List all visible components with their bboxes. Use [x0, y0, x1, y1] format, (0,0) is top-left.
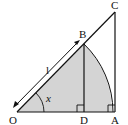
label-O: O — [9, 114, 17, 125]
arrowhead-lower-icon — [13, 101, 19, 108]
arrowhead-upper-icon — [74, 40, 80, 45]
shaded-sector — [17, 44, 112, 112]
geometry-diagram: O D A B C l x — [0, 0, 128, 125]
label-length-l: l — [46, 64, 49, 76]
label-D: D — [80, 114, 88, 125]
label-C: C — [111, 0, 118, 11]
label-A: A — [111, 114, 119, 125]
label-B: B — [79, 28, 86, 40]
label-angle-x: x — [45, 92, 51, 104]
